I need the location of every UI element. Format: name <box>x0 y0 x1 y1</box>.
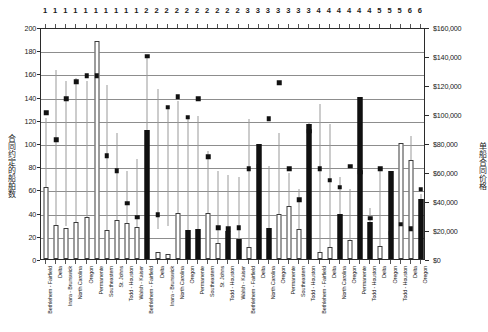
data-bar[interactable] <box>297 229 302 259</box>
chart-column[interactable] <box>142 29 152 259</box>
chart-column[interactable] <box>365 29 375 259</box>
chart-column[interactable] <box>61 29 71 259</box>
chart-column[interactable] <box>345 29 355 259</box>
data-bar[interactable] <box>185 230 190 259</box>
chart-column[interactable] <box>284 29 294 259</box>
price-marker[interactable] <box>378 166 383 171</box>
chart-column[interactable] <box>152 29 162 259</box>
price-marker[interactable] <box>257 164 262 169</box>
chart-column[interactable] <box>355 29 365 259</box>
data-bar[interactable] <box>175 213 180 259</box>
price-marker[interactable] <box>368 216 373 221</box>
chart-column[interactable] <box>163 29 173 259</box>
price-marker[interactable] <box>64 97 69 102</box>
chart-column[interactable] <box>385 29 395 259</box>
data-bar[interactable] <box>266 228 271 259</box>
price-marker[interactable] <box>115 169 120 174</box>
chart-column[interactable] <box>244 29 254 259</box>
chart-column[interactable] <box>92 29 102 259</box>
data-bar[interactable] <box>226 231 231 259</box>
chart-column[interactable] <box>315 29 325 259</box>
data-bar[interactable] <box>398 143 403 259</box>
data-bar[interactable] <box>277 214 282 259</box>
data-bar[interactable] <box>317 252 322 259</box>
chart-column[interactable] <box>112 29 122 259</box>
price-marker[interactable] <box>348 164 353 169</box>
data-bar[interactable] <box>114 220 119 259</box>
data-bar[interactable] <box>54 225 59 259</box>
price-marker[interactable] <box>419 187 424 192</box>
data-bar[interactable] <box>64 228 69 259</box>
data-bar[interactable] <box>165 254 170 259</box>
price-marker[interactable] <box>155 213 160 218</box>
price-marker[interactable] <box>145 54 150 59</box>
chart-column[interactable] <box>234 29 244 259</box>
data-bar[interactable] <box>408 160 413 259</box>
data-bar[interactable] <box>44 187 49 259</box>
chart-column[interactable] <box>264 29 274 259</box>
price-marker[interactable] <box>165 105 170 110</box>
price-marker[interactable] <box>125 201 130 206</box>
chart-column[interactable] <box>406 29 416 259</box>
data-bar[interactable] <box>206 213 211 259</box>
price-marker[interactable] <box>267 116 272 121</box>
data-bar[interactable] <box>125 223 130 259</box>
chart-column[interactable] <box>223 29 233 259</box>
data-bar[interactable] <box>388 171 393 259</box>
price-marker[interactable] <box>176 94 181 99</box>
price-marker[interactable] <box>277 80 282 85</box>
chart-column[interactable] <box>325 29 335 259</box>
price-marker[interactable] <box>135 215 140 220</box>
chart-column[interactable] <box>51 29 61 259</box>
price-marker[interactable] <box>206 155 211 160</box>
data-bar[interactable] <box>348 240 353 259</box>
data-bar[interactable] <box>216 243 221 259</box>
price-marker[interactable] <box>398 222 403 227</box>
data-bar[interactable] <box>337 214 342 259</box>
price-marker[interactable] <box>358 170 363 175</box>
chart-column[interactable] <box>304 29 314 259</box>
data-bar[interactable] <box>196 229 201 259</box>
chart-column[interactable] <box>254 29 264 259</box>
price-marker[interactable] <box>54 137 59 142</box>
price-marker[interactable] <box>236 225 241 230</box>
chart-column[interactable] <box>396 29 406 259</box>
chart-column[interactable] <box>173 29 183 259</box>
data-bar[interactable] <box>84 217 89 259</box>
chart-column[interactable] <box>102 29 112 259</box>
data-bar[interactable] <box>327 247 332 259</box>
chart-column[interactable] <box>82 29 92 259</box>
price-marker[interactable] <box>105 154 110 159</box>
chart-column[interactable] <box>294 29 304 259</box>
price-marker[interactable] <box>84 73 89 78</box>
price-marker[interactable] <box>216 225 221 230</box>
price-marker[interactable] <box>74 79 79 84</box>
data-bar[interactable] <box>155 252 160 259</box>
chart-column[interactable] <box>203 29 213 259</box>
chart-column[interactable] <box>122 29 132 259</box>
price-marker[interactable] <box>307 129 312 134</box>
chart-column[interactable] <box>193 29 203 259</box>
chart-column[interactable] <box>71 29 81 259</box>
chart-column[interactable] <box>183 29 193 259</box>
data-bar[interactable] <box>246 247 251 259</box>
data-bar[interactable] <box>378 246 383 259</box>
price-marker[interactable] <box>297 198 302 203</box>
data-bar[interactable] <box>368 222 373 259</box>
price-marker[interactable] <box>338 185 343 190</box>
price-marker[interactable] <box>226 227 231 232</box>
chart-column[interactable] <box>132 29 142 259</box>
price-marker[interactable] <box>287 166 292 171</box>
data-bar[interactable] <box>135 227 140 259</box>
price-marker[interactable] <box>44 111 49 116</box>
chart-column[interactable] <box>274 29 284 259</box>
price-marker[interactable] <box>388 231 393 236</box>
data-bar[interactable] <box>418 199 423 259</box>
price-marker[interactable] <box>409 227 414 232</box>
data-bar[interactable] <box>145 130 150 259</box>
data-bar[interactable] <box>256 144 261 259</box>
data-bar[interactable] <box>358 97 363 259</box>
data-bar[interactable] <box>104 230 109 259</box>
data-bar[interactable] <box>287 206 292 259</box>
chart-column[interactable] <box>213 29 223 259</box>
